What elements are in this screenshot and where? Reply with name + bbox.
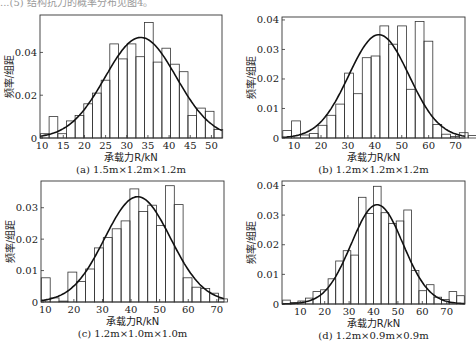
histogram-bar (419, 291, 427, 304)
x-tick-label: 10 (36, 140, 49, 151)
y-axis-title: 频率/组距 (3, 55, 15, 98)
x-tick-label: 40 (367, 306, 380, 317)
histogram-bar (358, 197, 366, 304)
x-tick-label: 50 (205, 140, 218, 151)
y-axis-title: 频率/组距 (245, 221, 257, 264)
chart-panel-d: 1020304050607000.010.020.030.04承载力R/kN频率… (238, 175, 476, 350)
chart-caption: (c) 1.2m×1.0m×1.0m (78, 328, 188, 339)
y-tick-label: 0.02 (257, 239, 279, 250)
histogram-bar (86, 269, 95, 302)
y-tick-label: 0.02 (16, 234, 38, 245)
y-tick-label: 0.04 (257, 180, 279, 191)
histogram-bar (336, 261, 344, 304)
y-tick-label: 0 (32, 297, 38, 308)
x-tick-label: 20 (318, 306, 331, 317)
y-axis-title: 频率/组距 (4, 220, 16, 263)
x-tick-label: 70 (449, 140, 462, 151)
histogram-bar (127, 44, 136, 138)
x-tick-label: 35 (142, 140, 155, 151)
x-tick-label: 10 (288, 140, 301, 151)
histogram-bar (362, 58, 371, 138)
y-tick-label: 0 (273, 299, 279, 310)
histogram-bar (398, 26, 407, 138)
histogram-bar (219, 299, 228, 302)
histogram-chart-a: 10152025303540455000.020.04承载力R/kN频率/组距(… (0, 0, 238, 175)
histogram-bar (41, 278, 50, 302)
histogram-bar (192, 287, 201, 302)
x-tick-label: 30 (96, 304, 109, 315)
x-tick-label: 20 (315, 140, 328, 151)
x-tick-label: 40 (163, 140, 176, 151)
histogram-bar (353, 94, 362, 138)
histogram-bar (396, 221, 404, 304)
x-tick-label: 10 (294, 306, 307, 317)
x-tick-label: 40 (125, 304, 138, 315)
histogram-bars (283, 186, 465, 304)
histogram-bar (58, 134, 67, 138)
histogram-chart-b: 1020304050607000.010.020.030.04承载力R/kN频率… (238, 0, 476, 175)
histogram-bar (77, 282, 86, 302)
histogram-bar (351, 255, 359, 304)
histogram-bar (148, 205, 157, 302)
histogram-bar (309, 134, 318, 138)
x-axis-title: 承载力R/kN (104, 151, 158, 163)
histogram-bar (136, 57, 145, 138)
x-axis-title: 承载力R/kN (106, 315, 160, 327)
histogram-bar (130, 189, 139, 302)
x-axis-title: 承载力R/kN (347, 317, 401, 329)
histogram-bar (415, 21, 424, 138)
histogram-bar (433, 124, 442, 138)
histogram-chart-c: 1020304050607000.010.020.03承载力R/kN频率/组距(… (0, 175, 238, 350)
y-tick-label: 0.03 (257, 44, 279, 55)
y-tick-label: 0 (31, 133, 37, 144)
y-tick-label: 0.04 (15, 47, 37, 58)
histogram-bar (139, 212, 148, 303)
histogram-bar (318, 125, 327, 138)
y-tick-label: 0.04 (257, 14, 279, 25)
normal-fit-curve (41, 197, 224, 301)
x-tick-label: 60 (416, 306, 429, 317)
x-tick-label: 40 (368, 140, 381, 151)
histogram-bar (468, 136, 476, 138)
histogram-bar (336, 104, 345, 138)
plot-frame (40, 15, 222, 138)
chart-caption: (b) 1.2m×1.2m×1.2m (318, 164, 429, 175)
histogram-bar (101, 80, 110, 138)
y-tick-label: 0.01 (257, 269, 279, 280)
x-tick-label: 15 (57, 140, 70, 151)
chart-caption: (a) 1.5m×1.2m×1.2m (76, 164, 186, 175)
histogram-bar (424, 41, 433, 138)
normal-fit-curve (282, 35, 465, 138)
histogram-bar (153, 62, 162, 138)
x-tick-label: 30 (342, 140, 355, 151)
x-tick-label: 20 (78, 140, 91, 151)
histogram-bar (93, 93, 102, 138)
histogram-bar (327, 115, 336, 138)
histogram-bar (442, 134, 451, 138)
x-axis-title: 承载力R/kN (347, 151, 401, 163)
x-tick-label: 60 (422, 140, 435, 151)
x-tick-label: 45 (184, 140, 197, 151)
chart-panel-a: 10152025303540455000.020.04承载力R/kN频率/组距(… (0, 0, 238, 175)
x-tick-label: 50 (153, 304, 166, 315)
histogram-bar (188, 116, 197, 139)
histogram-bar (406, 89, 415, 138)
histogram-bar (183, 278, 192, 302)
y-tick-label: 0.02 (15, 90, 37, 101)
histogram-bar (380, 26, 389, 138)
histogram-bar (371, 56, 380, 138)
y-tick-label: 0.03 (257, 210, 279, 221)
x-tick-label: 70 (440, 306, 453, 317)
y-tick-label: 0.01 (257, 103, 279, 114)
y-tick-label: 0 (273, 133, 279, 144)
histogram-bar (201, 289, 210, 303)
histogram-bar (197, 108, 206, 138)
chart-caption: (d) 1.2m×0.9m×0.9m (318, 330, 429, 341)
histogram-bar (366, 214, 374, 304)
x-tick-label: 10 (39, 304, 52, 315)
plot-frame (41, 181, 224, 302)
x-tick-label: 25 (99, 140, 112, 151)
histogram-bar (404, 210, 412, 304)
x-tick-label: 70 (210, 304, 223, 315)
x-tick-label: 20 (68, 304, 81, 315)
